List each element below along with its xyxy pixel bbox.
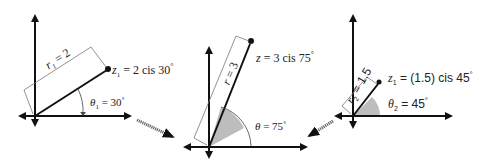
label-theta2: θ2 = 45° [388,96,428,112]
panel-z1: r1 = 2 z1 = 2 cis 30° θ1 = 30° [20,16,173,125]
label-r1: r1 = 2 [43,45,74,73]
label-theta1: θ1 = 30° [90,96,125,111]
panel-z: r = 3 z = 3 cis 75° θ = 75° [185,36,314,157]
label-theta: θ = 75° [255,120,286,132]
point-z2 [377,80,382,85]
label-z2: z1 = (1.5) cis 45° [387,70,473,86]
panel-z2: r2 = 1.5 z1 = (1.5) cis 45° θ2 = 45° [336,16,473,127]
angle-fill-theta [209,107,244,147]
label-z: z = 3 cis 75° [255,50,314,65]
complex-multiplication-diagram: r1 = 2 z1 = 2 cis 30° θ1 = 30° [0,0,485,166]
angle-arc-theta1 [78,89,83,114]
transition-arrow-right [309,121,333,136]
label-z1: z1 = 2 cis 30° [111,62,173,79]
transition-arrow-left [137,120,173,137]
